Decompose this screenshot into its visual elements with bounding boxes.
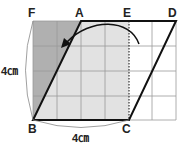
label-a: A (75, 6, 84, 20)
left-dimension-arc (26, 21, 34, 120)
left-dimension-label: 4㎝ (1, 65, 18, 77)
label-c: C (122, 122, 131, 136)
label-f: F (28, 6, 35, 20)
label-e: E (123, 6, 131, 20)
bottom-dimension-label: 4㎝ (72, 132, 89, 144)
label-d: D (168, 6, 177, 20)
label-b: B (28, 122, 37, 136)
diagram-canvas: F A E D B C 4㎝ 4㎝ (0, 0, 185, 152)
bottom-dimension-arc (33, 120, 129, 128)
